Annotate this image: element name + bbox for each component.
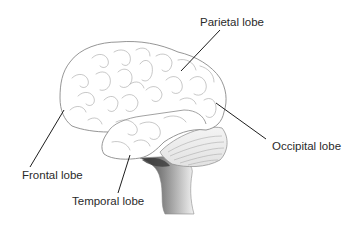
temporal-leader-line [118, 155, 130, 193]
frontal-leader-line [30, 110, 64, 167]
frontal-lobe-label: Frontal lobe [22, 170, 83, 182]
brain-diagram: Parietal lobe Occipital lobe Frontal lob… [0, 0, 362, 229]
brain-illustration [0, 0, 362, 229]
occipital-lobe-label: Occipital lobe [272, 141, 341, 153]
temporal-lobe-label: Temporal lobe [72, 196, 144, 208]
parietal-lobe-label: Parietal lobe [200, 17, 264, 29]
